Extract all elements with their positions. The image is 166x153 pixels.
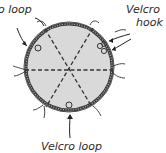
label-velcro-hook-line2: hook — [136, 17, 163, 29]
label-velcro-hook-line1: Velcro — [126, 4, 160, 16]
label-velcro-loop-bottom: Velcro loop — [41, 141, 102, 153]
label-velcro-loop-top: o loop — [0, 4, 32, 16]
velcro-diagram: o loop Velcro hook Velcro loop — [0, 0, 166, 153]
